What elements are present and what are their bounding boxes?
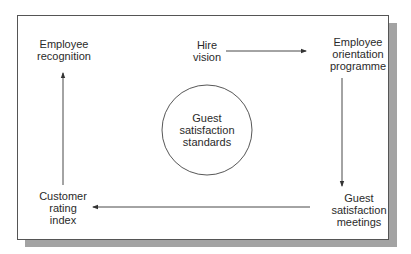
center-label: Guest satisfaction standards	[179, 112, 234, 148]
node-employee-recognition: Employee recognition	[37, 38, 91, 62]
node-line: Hire	[193, 39, 221, 51]
center-line-3: standards	[179, 136, 234, 148]
node-line: Employee	[37, 38, 91, 50]
node-line: vision	[193, 51, 221, 63]
node-employee-orientation-programme: Employee orientation programme	[330, 36, 386, 72]
node-line: satisfaction	[331, 204, 386, 216]
node-guest-satisfaction-meetings: Guest satisfaction meetings	[331, 192, 386, 228]
node-line: meetings	[331, 216, 386, 228]
node-customer-rating-index: Customer rating index	[39, 190, 87, 226]
node-line: Employee	[330, 36, 386, 48]
node-line: rating	[39, 202, 87, 214]
node-line: recognition	[37, 50, 91, 62]
center-line-2: satisfaction	[179, 124, 234, 136]
node-hire-vision: Hire vision	[193, 39, 221, 63]
node-line: Guest	[331, 192, 386, 204]
node-line: Customer	[39, 190, 87, 202]
node-line: orientation	[330, 48, 386, 60]
center-line-1: Guest	[179, 112, 234, 124]
node-line: programme	[330, 60, 386, 72]
node-line: index	[39, 214, 87, 226]
